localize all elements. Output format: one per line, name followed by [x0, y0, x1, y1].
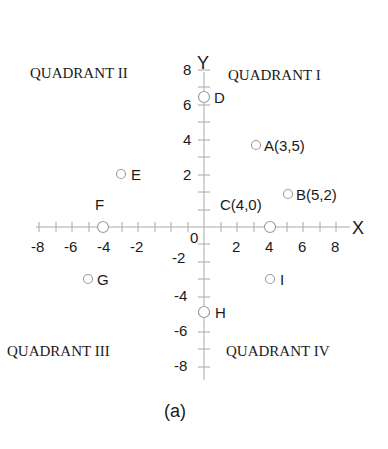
- svg-text:B(5,2): B(5,2): [296, 186, 337, 203]
- svg-text:-6: -6: [64, 238, 77, 255]
- svg-text:D: D: [214, 89, 225, 106]
- svg-text:F: F: [95, 196, 104, 213]
- svg-text:H: H: [215, 304, 226, 321]
- point-marker: [284, 190, 293, 199]
- coordinate-plane-figure: Y X 0 -8 -6 -4 -2 2 4 6 8 8 6 4 2 -2 -4 …: [0, 0, 388, 449]
- svg-text:4: 4: [265, 238, 273, 255]
- figure-caption: (a): [164, 401, 186, 421]
- svg-text:-2: -2: [130, 238, 143, 255]
- x-axis-label: X: [352, 218, 364, 238]
- svg-text:-6: -6: [174, 322, 187, 339]
- point-F: F: [95, 196, 109, 233]
- point-marker: [265, 222, 276, 233]
- y-tick-labels: 8 6 4 2 -2 -4 -6 -8: [172, 61, 191, 374]
- point-marker: [98, 222, 109, 233]
- svg-text:-4: -4: [97, 238, 110, 255]
- point-H: H: [199, 304, 226, 321]
- svg-text:-8: -8: [31, 238, 44, 255]
- point-marker: [84, 275, 93, 284]
- quadrant-i-label: QUADRANT I: [228, 67, 321, 83]
- point-marker: [199, 307, 210, 318]
- svg-text:-2: -2: [172, 249, 185, 266]
- svg-text:8: 8: [331, 238, 339, 255]
- svg-text:6: 6: [183, 96, 191, 113]
- y-axis-label: Y: [197, 53, 209, 73]
- quadrant-iii-label: QUADRANT III: [7, 343, 110, 359]
- point-A: A(3,5): [252, 137, 305, 154]
- point-marker: [252, 141, 261, 150]
- svg-text:-8: -8: [174, 357, 187, 374]
- point-B: B(5,2): [284, 186, 337, 203]
- svg-text:I: I: [280, 271, 284, 288]
- svg-text:-4: -4: [174, 287, 187, 304]
- svg-text:8: 8: [183, 61, 191, 78]
- quadrant-iv-label: QUADRANT IV: [226, 343, 330, 359]
- svg-text:2: 2: [232, 238, 240, 255]
- svg-text:E: E: [131, 166, 141, 183]
- point-G: G: [84, 271, 109, 288]
- point-I: I: [266, 271, 285, 288]
- svg-text:4: 4: [183, 131, 191, 148]
- origin-label: 0: [190, 229, 198, 246]
- svg-text:6: 6: [298, 238, 306, 255]
- point-D: D: [199, 89, 226, 106]
- svg-text:A(3,5): A(3,5): [264, 137, 305, 154]
- point-E: E: [117, 166, 142, 183]
- svg-text:2: 2: [183, 166, 191, 183]
- quadrant-ii-label: QUADRANT II: [30, 65, 128, 81]
- point-marker: [117, 170, 126, 179]
- svg-text:C(4,0): C(4,0): [220, 196, 262, 213]
- point-marker: [199, 92, 210, 103]
- point-marker: [266, 275, 275, 284]
- svg-text:G: G: [97, 271, 109, 288]
